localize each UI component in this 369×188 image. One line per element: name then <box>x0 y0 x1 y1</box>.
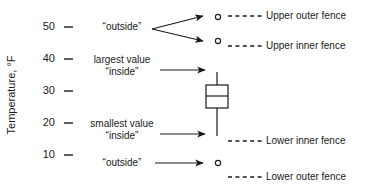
annotation-outside-lower: “outside” <box>103 157 142 168</box>
annotation-outside-upper: “outside” <box>103 21 142 32</box>
arrow-outside-upper-outer <box>152 16 203 29</box>
y-tick-label-20: 20 <box>43 116 55 128</box>
arrow-outside-upper-inner <box>152 29 203 41</box>
y-axis-title: Temperature, °F <box>5 55 17 134</box>
fence-label-lower-outer: Lower outer fence <box>266 171 346 182</box>
outlier-point-upper-inner <box>215 38 220 43</box>
fence-label-upper-inner: Upper inner fence <box>266 40 346 51</box>
annotation-largest-inside-line2: “inside” <box>106 66 139 77</box>
outlier-point-lower <box>215 160 220 165</box>
annotation-largest-inside-line1: largest value <box>94 54 151 65</box>
annotation-smallest-inside-line2: “inside” <box>106 130 139 141</box>
y-tick-label-10: 10 <box>43 148 55 160</box>
y-tick-label-30: 30 <box>43 84 55 96</box>
box-plot-figure: Temperature, °F 50 40 30 20 10 “outside”… <box>0 0 369 188</box>
y-tick-label-40: 40 <box>43 52 55 64</box>
outlier-point-upper-outer <box>215 14 220 19</box>
y-tick-label-50: 50 <box>43 20 55 32</box>
fence-label-upper-outer: Upper outer fence <box>266 10 346 21</box>
fence-label-lower-inner: Lower inner fence <box>266 135 346 146</box>
annotation-smallest-inside-line1: smallest value <box>90 118 154 129</box>
